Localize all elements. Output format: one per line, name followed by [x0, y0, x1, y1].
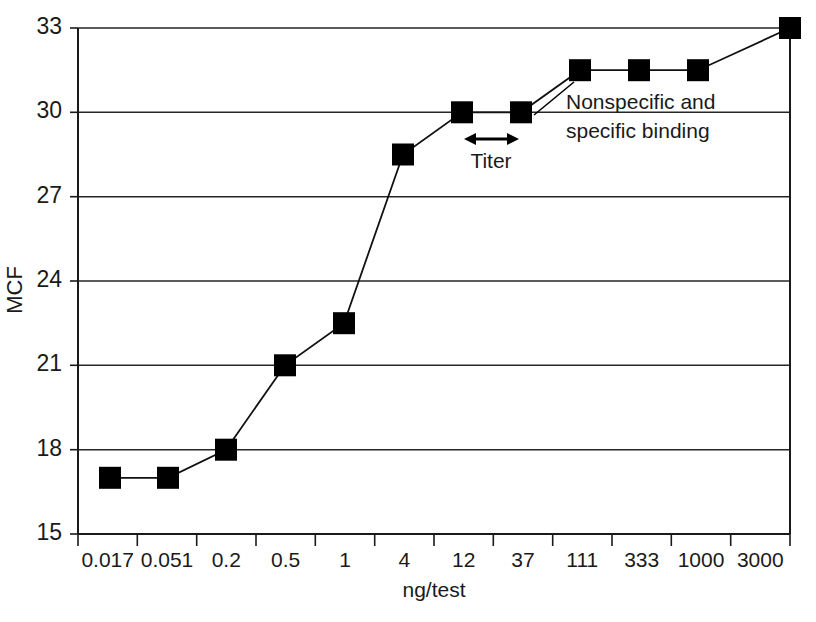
x-tick-label: 1 [339, 548, 351, 571]
data-point-marker [215, 439, 237, 461]
binding-annotation-line1: Nonspecific and [566, 90, 715, 113]
x-tick-label: 12 [452, 548, 475, 571]
x-tick-label: 0.5 [271, 548, 300, 571]
data-point-marker [392, 144, 414, 166]
x-tick-label: 333 [624, 548, 659, 571]
x-tick-label: 0.017 [81, 548, 134, 571]
x-tick-label: 0.2 [212, 548, 241, 571]
y-tick-label: 21 [36, 350, 62, 376]
y-tick-label: 15 [36, 519, 62, 545]
data-point-marker [569, 59, 591, 81]
binding-annotation-line2: specific binding [566, 119, 710, 142]
titer-annotation-label: Titer [470, 149, 511, 172]
x-tick-label: 1000 [678, 548, 725, 571]
x-tick-label: 0.051 [141, 548, 194, 571]
data-point-marker [333, 312, 355, 334]
y-tick-label: 24 [36, 266, 62, 292]
x-tick-label: 4 [398, 548, 410, 571]
x-tick-label: 111 [566, 548, 598, 571]
y-tick-labels: 33 30 27 24 21 18 15 [36, 13, 62, 545]
data-point-marker [157, 467, 179, 489]
y-tick-label: 33 [36, 13, 62, 39]
y-tick-label: 18 [36, 435, 62, 461]
y-axis-title: MCF [2, 266, 27, 314]
chart-figure: 33 30 27 24 21 18 15 MCF [0, 0, 816, 622]
y-tick-label: 30 [36, 97, 62, 123]
data-point-marker [99, 467, 121, 489]
data-point-marker [451, 101, 473, 123]
x-axis-title: ng/test [402, 578, 465, 601]
data-point-marker [687, 59, 709, 81]
data-point-marker [274, 354, 296, 376]
x-tick-labels: 0.017 0.051 0.2 0.5 1 4 12 37 111 333 10… [81, 548, 783, 571]
data-point-marker [628, 59, 650, 81]
data-point-marker [510, 101, 532, 123]
titer-annotation: Titer [464, 133, 519, 172]
mcf-titration-chart: 33 30 27 24 21 18 15 MCF [0, 0, 816, 622]
x-tick-marks [78, 534, 790, 546]
y-tick-label: 27 [36, 182, 62, 208]
y-tick-marks [70, 28, 78, 534]
data-point-marker [779, 17, 801, 39]
x-tick-label: 37 [511, 548, 534, 571]
x-tick-label: 3000 [737, 548, 784, 571]
